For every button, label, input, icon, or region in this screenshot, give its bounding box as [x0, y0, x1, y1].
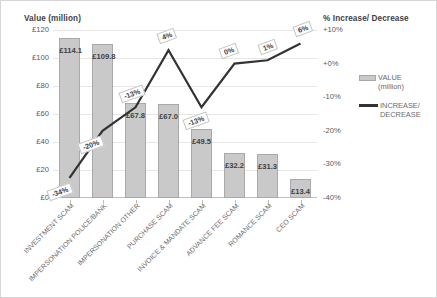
legend-item-change: INCREASE/ DECREASE: [359, 101, 437, 120]
left-tick-6: £0: [19, 193, 49, 202]
right-tick-1: +0%: [323, 59, 357, 68]
combo-chart: Value (million) % Increase/ Decrease £12…: [0, 0, 437, 298]
right-axis-title: % Increase/ Decrease: [323, 14, 409, 23]
left-tick-1: £100: [19, 53, 49, 62]
bar-value-label-7: £13.4: [290, 187, 310, 196]
bar-value-label-3: £67.0: [158, 112, 178, 121]
percent-label-5: 0%: [218, 42, 239, 59]
plot-area: £114.1£109.8£67.8£67.0£49.5£32.2£31.3£13…: [53, 30, 317, 198]
left-tick-2: £80: [19, 81, 49, 90]
bar-swatch-icon: [359, 75, 376, 81]
bar-value-label-4: £49.5: [191, 137, 211, 146]
bar-value-label-6: £31.3: [257, 162, 277, 171]
percent-label-2: -13%: [118, 85, 145, 104]
bar-value-label-5: £32.2: [224, 161, 244, 170]
bar-6[interactable]: [257, 154, 277, 198]
right-tick-4: -30%: [323, 159, 357, 168]
bar-0[interactable]: [59, 38, 79, 198]
right-tick-2: -10%: [323, 92, 357, 101]
left-tick-0: £120: [19, 25, 49, 34]
percent-label-0: -34%: [46, 182, 73, 201]
legend-value-line2: (million): [378, 82, 404, 91]
percent-label-7: 6%: [292, 21, 313, 38]
bar-value-label-1: £109.8: [92, 52, 112, 61]
right-tick-5: -40%: [323, 193, 357, 202]
legend-item-value: VALUE (million): [359, 73, 437, 92]
legend-change-line2: DECREASE: [380, 110, 421, 119]
bar-1[interactable]: [92, 44, 112, 198]
legend-change-line1: INCREASE/: [380, 101, 420, 110]
left-tick-4: £40: [19, 137, 49, 146]
right-tick-3: -20%: [323, 126, 357, 135]
category-axis: INVESTMENT SCAMIMPERSONATION POLICE/BANK…: [53, 200, 317, 295]
left-axis-title: Value (million): [24, 14, 81, 23]
legend-label-change: INCREASE/ DECREASE: [380, 101, 421, 120]
left-tick-5: £20: [19, 165, 49, 174]
legend-value-line1: VALUE: [378, 73, 402, 82]
gridline: [53, 30, 317, 31]
legend-label-value: VALUE (million): [378, 73, 404, 92]
percent-label-6: 1%: [257, 39, 278, 56]
left-tick-3: £60: [19, 109, 49, 118]
chart-legend: VALUE (million) INCREASE/ DECREASE: [359, 73, 437, 128]
line-swatch-icon: [359, 104, 378, 107]
bar-value-label-0: £114.1: [59, 46, 79, 55]
bar-5[interactable]: [224, 153, 244, 198]
right-tick-0: +10%: [323, 25, 357, 34]
bar-value-label-2: £67.8: [125, 111, 145, 120]
